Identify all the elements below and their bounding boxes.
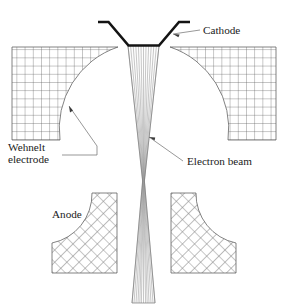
- electron-gun-diagram: Cathode Wehnelt electrode Electron beam …: [0, 0, 286, 308]
- label-electron-beam: Electron beam: [187, 155, 252, 167]
- label-wehnelt-line2: electrode: [8, 153, 49, 165]
- label-wehnelt-line1: Wehnelt: [8, 141, 46, 153]
- label-anode: Anode: [52, 208, 82, 220]
- electron-gun-figure: Cathode Wehnelt electrode Electron beam …: [0, 0, 286, 308]
- label-cathode: Cathode: [203, 24, 240, 36]
